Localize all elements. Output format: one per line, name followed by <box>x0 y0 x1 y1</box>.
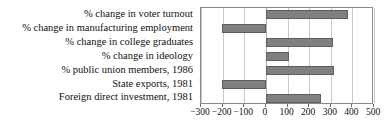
bar[interactable] <box>222 80 266 89</box>
gridline <box>374 8 375 103</box>
x-tick-label: 200 <box>301 107 315 118</box>
category-label: % public union members, 1986 <box>61 64 196 75</box>
bar[interactable] <box>266 38 333 47</box>
bar-row <box>201 22 372 36</box>
bar-row <box>201 91 372 105</box>
bar[interactable] <box>266 94 321 103</box>
bar-row <box>201 63 372 77</box>
x-tick-label: −200 <box>212 107 232 118</box>
plot-area <box>200 7 373 104</box>
category-label-column: % change in voter turnout% change in man… <box>0 7 196 104</box>
bar-row <box>201 50 372 64</box>
x-tick-label: 300 <box>323 107 337 118</box>
category-label: State exports, 1981 <box>112 78 196 89</box>
x-tick-label: 100 <box>279 107 293 118</box>
chart-screenshot: % change in voter turnout% change in man… <box>0 0 386 135</box>
bar-row <box>201 36 372 50</box>
x-tick-label: 400 <box>344 107 358 118</box>
bar-layer <box>201 8 372 103</box>
x-tick-label: −100 <box>233 107 253 118</box>
x-axis: −300−200−1000100200300400500 <box>200 104 373 120</box>
category-label: Foreign direct investment, 1981 <box>59 91 196 102</box>
bar-row <box>201 8 372 22</box>
category-label: % change in college graduates <box>65 36 196 47</box>
category-label: % change in voter turnout <box>84 8 196 19</box>
bar[interactable] <box>266 66 334 75</box>
category-label: % change in ideology <box>102 50 196 61</box>
x-tick-label: −300 <box>190 107 210 118</box>
bar[interactable] <box>266 52 289 61</box>
x-tick-label: 500 <box>366 107 380 118</box>
category-label: % change in manufacturing employment <box>22 22 196 33</box>
bar-row <box>201 77 372 91</box>
x-tick-label: 0 <box>263 107 268 118</box>
bar[interactable] <box>222 24 266 33</box>
bar[interactable] <box>266 10 348 19</box>
